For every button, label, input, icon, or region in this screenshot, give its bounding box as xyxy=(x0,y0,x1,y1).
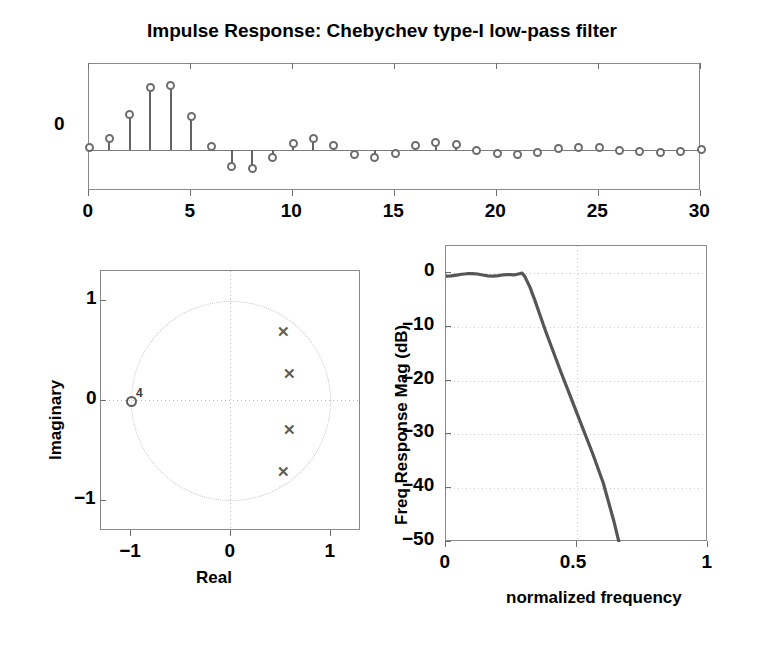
stem-marker xyxy=(248,164,257,173)
impulse-xtick-mark xyxy=(292,190,293,196)
pole-zero-ylabel: Imaginary xyxy=(46,380,66,460)
impulse-xtick-mark xyxy=(292,63,293,69)
pz-xtick-label: −1 xyxy=(119,540,141,562)
frequency-response-curve xyxy=(446,246,708,542)
pole-marker: ✕ xyxy=(277,325,290,338)
stem-marker xyxy=(595,143,604,152)
pz-xtick-mark xyxy=(230,530,231,536)
impulse-xtick-mark xyxy=(598,63,599,69)
impulse-xtick-mark xyxy=(88,63,89,69)
stem-marker xyxy=(574,143,583,152)
stem-marker xyxy=(391,149,400,158)
impulse-xtick-label: 0 xyxy=(82,200,93,222)
impulse-xtick-mark xyxy=(598,190,599,196)
frequency-ytick-label: 0 xyxy=(424,259,435,281)
stem-marker xyxy=(472,146,481,155)
stem-marker xyxy=(227,162,236,171)
pz-xtick-mark xyxy=(130,530,131,536)
stem-marker xyxy=(493,149,502,158)
frequency-xtick-label: 0 xyxy=(440,551,451,573)
pz-ytick-label: 0 xyxy=(86,387,97,409)
zero-multiplicity-label: 4 xyxy=(136,386,143,400)
stem-marker xyxy=(370,153,379,162)
frequency-ytick-mark xyxy=(445,272,451,273)
stem-marker xyxy=(533,148,542,157)
pole-zero-xlabel: Real xyxy=(196,568,232,588)
impulse-ytick-0: 0 xyxy=(54,113,65,135)
stem-marker xyxy=(125,110,134,119)
stem-marker xyxy=(85,143,94,152)
pole-zero-axes: ✕✕✕✕4 xyxy=(100,270,360,530)
frequency-ytick-mark xyxy=(445,433,451,434)
stem-marker xyxy=(615,146,624,155)
stem-marker xyxy=(146,83,155,92)
impulse-xtick-mark xyxy=(496,190,497,196)
stem-marker xyxy=(329,141,338,150)
impulse-xtick-label: 25 xyxy=(587,200,608,222)
impulse-response-axes xyxy=(88,63,700,190)
frequency-ytick-mark xyxy=(445,541,451,542)
frequency-xtick-label: 1 xyxy=(702,551,713,573)
stem-line xyxy=(129,115,131,150)
impulse-xtick-label: 30 xyxy=(689,200,710,222)
impulse-xtick-label: 5 xyxy=(184,200,195,222)
stem-marker xyxy=(105,134,114,143)
figure-title: Impulse Response: Chebychev type-I low-p… xyxy=(0,20,764,42)
stem-marker xyxy=(697,145,706,154)
stem-marker xyxy=(289,139,298,148)
stem-marker xyxy=(309,134,318,143)
stem-marker xyxy=(635,147,644,156)
frequency-xtick-mark xyxy=(707,541,708,547)
pz-ytick-mark xyxy=(100,300,106,301)
stem-marker xyxy=(166,81,175,90)
impulse-xtick-mark xyxy=(190,190,191,196)
impulse-xtick-mark xyxy=(394,190,395,196)
pz-ytick-label: 1 xyxy=(86,287,97,309)
frequency-xlabel: normalized frequency xyxy=(506,588,682,608)
pole-marker: ✕ xyxy=(283,423,296,436)
impulse-xtick-mark xyxy=(700,63,701,69)
pz-xtick-label: 0 xyxy=(225,540,236,562)
pole-marker: ✕ xyxy=(277,465,290,478)
impulse-xtick-mark xyxy=(496,63,497,69)
impulse-xtick-label: 15 xyxy=(383,200,404,222)
frequency-ytick-mark xyxy=(445,487,451,488)
impulse-xtick-mark xyxy=(700,190,701,196)
impulse-xtick-label: 20 xyxy=(485,200,506,222)
unit-circle xyxy=(131,301,331,501)
pz-xtick-label: 1 xyxy=(325,540,336,562)
stem-marker xyxy=(187,112,196,121)
pole-marker: ✕ xyxy=(283,367,296,380)
stem-marker xyxy=(207,142,216,151)
frequency-response-axes xyxy=(445,245,707,541)
matlab-figure: Impulse Response: Chebychev type-I low-p… xyxy=(0,0,764,649)
stem-marker xyxy=(268,153,277,162)
stem-marker xyxy=(411,141,420,150)
frequency-ytick-label: −50 xyxy=(402,528,434,550)
frequency-ylabel: Freq Response Mag (dB) xyxy=(392,325,412,525)
frequency-ytick-mark xyxy=(445,380,451,381)
stem-marker xyxy=(656,148,665,157)
stem-marker xyxy=(452,140,461,149)
stem-marker xyxy=(513,150,522,159)
impulse-xtick-mark xyxy=(88,190,89,196)
pz-ytick-label: −1 xyxy=(74,487,96,509)
stem-marker xyxy=(554,144,563,153)
pz-xtick-mark xyxy=(330,530,331,536)
frequency-ytick-mark xyxy=(445,326,451,327)
stem-line xyxy=(190,117,192,151)
stem-line xyxy=(170,86,172,150)
stem-line xyxy=(149,88,151,151)
impulse-xtick-mark xyxy=(394,63,395,69)
stem-marker xyxy=(676,147,685,156)
zero-marker xyxy=(126,396,137,407)
pz-ytick-mark xyxy=(100,400,106,401)
frequency-xtick-mark xyxy=(576,541,577,547)
stem-marker xyxy=(350,150,359,159)
stem-marker xyxy=(431,138,440,147)
impulse-xtick-mark xyxy=(190,63,191,69)
frequency-xtick-label: 0.5 xyxy=(560,551,586,573)
pz-ytick-mark xyxy=(100,500,106,501)
impulse-xtick-label: 10 xyxy=(281,200,302,222)
